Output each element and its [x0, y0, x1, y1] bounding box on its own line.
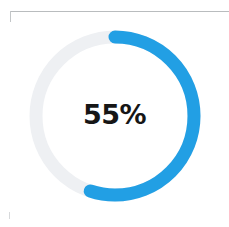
donut-progress-widget: 55%: [0, 0, 229, 227]
donut-center-percentage-label: 55%: [0, 100, 229, 130]
